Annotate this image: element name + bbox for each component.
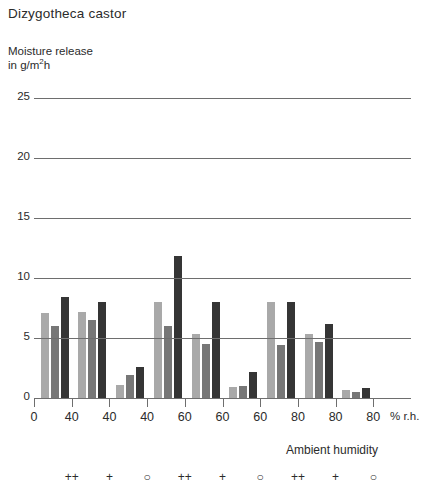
bar-group-0-series-0 bbox=[41, 313, 49, 398]
x-tick-1 bbox=[72, 399, 73, 407]
bar-group-6-series-2 bbox=[287, 302, 295, 398]
x-tick-label-9: 80 bbox=[356, 410, 390, 424]
x-tick-8 bbox=[336, 399, 337, 407]
bar-group-1-series-1 bbox=[88, 320, 96, 398]
bar-group-5-series-1 bbox=[239, 386, 247, 398]
x-axis-unit-label: % r.h. bbox=[390, 410, 419, 422]
x-tick-2 bbox=[109, 399, 110, 407]
x-tick-label-0: 0 bbox=[17, 410, 51, 424]
group-symbol-5: + bbox=[206, 470, 240, 484]
bar-group-7-series-1 bbox=[315, 342, 323, 398]
bar-group-4-series-2 bbox=[212, 302, 220, 398]
x-tick-label-4: 60 bbox=[168, 410, 202, 424]
bar-group-4-series-0 bbox=[192, 334, 200, 398]
group-symbol-9: ○ bbox=[356, 470, 390, 484]
group-symbol-8: + bbox=[319, 470, 353, 484]
y-tick-label-25: 25 bbox=[4, 90, 30, 102]
x-tick-6 bbox=[260, 399, 261, 407]
bar-group-6-series-0 bbox=[267, 302, 275, 398]
y-axis-label: Moisture release in g/m2h bbox=[8, 44, 93, 72]
y-tick-label-15: 15 bbox=[4, 210, 30, 222]
moisture-release-bar-chart: Dizygotheca castor Moisture release in g… bbox=[0, 0, 433, 497]
plot-area: 0510152025 bbox=[34, 98, 411, 398]
gridline-10 bbox=[34, 278, 411, 279]
y-axis-label-unit-pre: in g/m bbox=[8, 59, 39, 71]
group-symbol-2: + bbox=[92, 470, 126, 484]
group-symbol-1: ++ bbox=[55, 470, 89, 484]
x-tick-label-6: 60 bbox=[243, 410, 277, 424]
group-symbol-3: ○ bbox=[130, 470, 164, 484]
x-tick-0 bbox=[34, 399, 35, 407]
x-tick-9 bbox=[373, 399, 374, 407]
x-tick-label-8: 80 bbox=[319, 410, 353, 424]
x-tick-label-5: 60 bbox=[206, 410, 240, 424]
y-axis-label-line1: Moisture release bbox=[8, 45, 93, 57]
gridline-20 bbox=[34, 158, 411, 159]
x-tick-label-7: 80 bbox=[281, 410, 315, 424]
group-symbol-6: ○ bbox=[243, 470, 277, 484]
bar-group-0-series-2 bbox=[61, 297, 69, 398]
bar-group-2-series-0 bbox=[116, 385, 124, 398]
bar-group-1-series-0 bbox=[78, 312, 86, 398]
bar-group-7-series-0 bbox=[305, 334, 313, 398]
gridline-15 bbox=[34, 218, 411, 219]
bar-group-5-series-0 bbox=[229, 387, 237, 398]
x-axis-title: Ambient humidity bbox=[286, 443, 378, 457]
x-tick-5 bbox=[223, 399, 224, 407]
bar-group-3-series-0 bbox=[154, 302, 162, 398]
x-tick-label-3: 40 bbox=[130, 410, 164, 424]
gridline-25 bbox=[34, 98, 411, 99]
x-tick-4 bbox=[185, 399, 186, 407]
x-tick-3 bbox=[147, 399, 148, 407]
y-axis-label-unit-post: h bbox=[44, 59, 50, 71]
bar-group-7-series-2 bbox=[325, 324, 333, 398]
x-tick-label-1: 40 bbox=[55, 410, 89, 424]
bar-group-1-series-2 bbox=[98, 302, 106, 398]
y-axis-label-line2: in g/m2h bbox=[8, 58, 93, 72]
x-tick-7 bbox=[298, 399, 299, 407]
bar-group-6-series-1 bbox=[277, 345, 285, 398]
group-symbol-4: ++ bbox=[168, 470, 202, 484]
chart-title: Dizygotheca castor bbox=[8, 6, 126, 21]
bar-group-4-series-1 bbox=[202, 344, 210, 398]
gridline-5 bbox=[34, 338, 411, 339]
y-tick-label-5: 5 bbox=[4, 330, 30, 342]
y-tick-label-0: 0 bbox=[4, 390, 30, 402]
bar-group-5-series-2 bbox=[249, 372, 257, 398]
bars-layer bbox=[34, 98, 411, 398]
y-tick-label-10: 10 bbox=[4, 270, 30, 282]
bar-group-2-series-2 bbox=[136, 367, 144, 398]
bar-group-2-series-1 bbox=[126, 375, 134, 398]
y-tick-label-20: 20 bbox=[4, 150, 30, 162]
group-symbol-7: ++ bbox=[281, 470, 315, 484]
x-tick-label-2: 40 bbox=[92, 410, 126, 424]
